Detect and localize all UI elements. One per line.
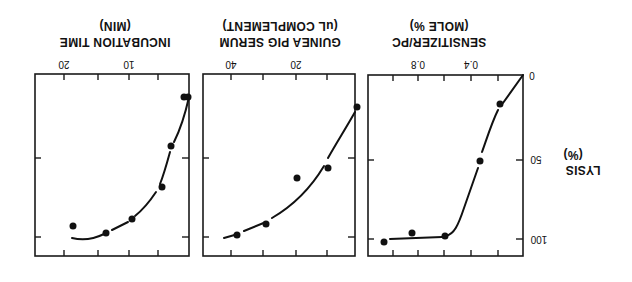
panel-title: GUINEA PIG SERUM — [219, 35, 341, 49]
panel-sensitizer: 0.4 0.8 SENSITIZER/PC (MOLE %) — [368, 19, 523, 256]
panel-title: SENSITIZER/PC — [392, 35, 487, 49]
x-tick-label: 40 — [225, 59, 237, 70]
x-tick-label: 10 — [123, 59, 135, 70]
x-tick-label: 20 — [290, 59, 302, 70]
lysis-figure: LYSIS (%) 0 50 100 0.4 0.8 — [0, 0, 632, 282]
fit-curve — [390, 75, 523, 239]
x-tick-label: 20 — [58, 59, 70, 70]
panel-frame — [203, 74, 355, 256]
y-tick-100: 100 — [530, 234, 547, 245]
y-axis-title: LYSIS (%) — [563, 148, 600, 177]
y-axis-unit: (%) — [563, 148, 583, 162]
panel-subtitle: (MIN) — [99, 19, 131, 33]
fit-curve — [224, 112, 355, 238]
y-tick-0: 0 — [529, 70, 535, 81]
panel-title: INCUBATION TIME — [60, 35, 171, 49]
panel-guinea-pig-serum: 20 40 GUINEA PIG SERUM (uL COMPLEMENT) — [203, 19, 361, 256]
y-tick-50: 50 — [530, 154, 542, 165]
x-tick-label: 0.8 — [411, 59, 425, 70]
panel-subtitle: (MOLE %) — [409, 19, 468, 33]
y-axis-label: LYSIS — [565, 163, 600, 177]
panel-incubation-time: 10 20 INCUBATION TIME (MIN) — [35, 19, 192, 256]
x-tick-label: 0.4 — [464, 59, 478, 70]
panel-subtitle: (uL COMPLEMENT) — [222, 19, 338, 33]
